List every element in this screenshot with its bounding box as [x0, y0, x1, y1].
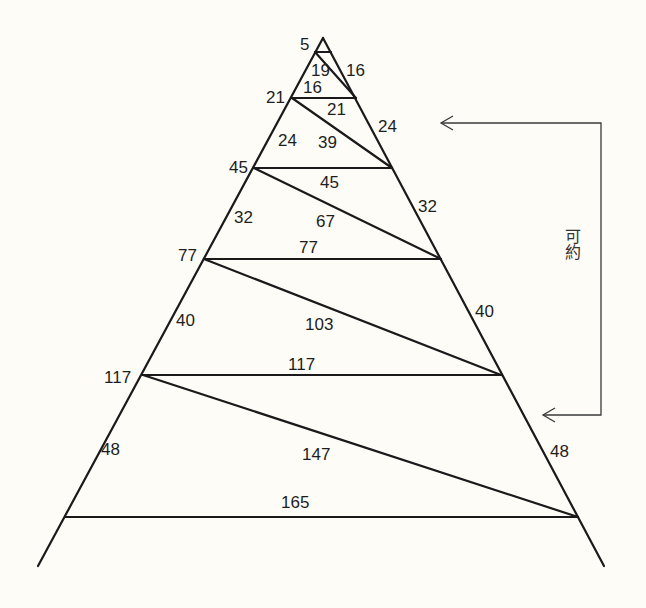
- right-side-label: 40: [475, 302, 494, 321]
- left-side-label: 48: [101, 440, 120, 459]
- rung-label: 117: [288, 355, 315, 374]
- left-side-label: 32: [234, 208, 253, 227]
- diagonal-label: 21: [327, 100, 346, 119]
- bracket-line: [441, 123, 601, 415]
- rung-label: 165: [281, 493, 309, 512]
- rung-label: 16: [303, 78, 322, 97]
- right-side-label: 16: [346, 61, 365, 80]
- diagonal-4: [204, 259, 501, 375]
- right-side-edge: [323, 38, 604, 566]
- diagonal-label: 19: [311, 61, 330, 80]
- left-vertex-label: 45: [229, 158, 248, 177]
- left-vertex-label: 21: [266, 88, 285, 107]
- rung-label: 45: [320, 173, 339, 192]
- diagonal-label: 147: [302, 445, 330, 464]
- diagonal-label: 39: [318, 133, 337, 152]
- left-vertex-label: 77: [178, 246, 197, 265]
- left-side-edge: [38, 38, 323, 566]
- left-side-label: 40: [176, 311, 195, 330]
- pyramid-diagram: 5 21 45 77 117 24 32 40 48 16 24 32 40 4…: [0, 0, 646, 608]
- diagonal-3: [254, 168, 441, 259]
- right-side-label: 48: [550, 442, 569, 461]
- right-side-label: 32: [418, 197, 437, 216]
- bracket-label: 可約: [562, 228, 580, 260]
- diagonal-label: 67: [316, 212, 335, 231]
- rung-label: 77: [299, 238, 318, 257]
- left-vertex-label: 117: [104, 368, 131, 387]
- diagonal-label: 103: [305, 315, 333, 334]
- right-side-label: 24: [378, 117, 397, 136]
- left-side-label: 24: [278, 131, 297, 150]
- apex-label: 5: [300, 35, 309, 54]
